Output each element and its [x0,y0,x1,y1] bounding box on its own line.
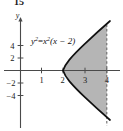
y-axis-label: y [15,11,20,20]
plot-svg: y 4 2 −2 −4 1 2 3 4 y2=x2(x − 2) [0,0,123,131]
x-tick-label-2: 2 [60,75,64,85]
equation-annotation: y2=x2(x − 2) [30,36,75,46]
y-tick-label-minus-4: −4 [6,91,16,101]
y-tick-label-2: 2 [10,53,14,63]
equation-factor: (x − 2) [50,36,75,46]
y-tick-label-minus-2: −2 [6,78,15,88]
y-tick-label-4: 4 [10,41,15,51]
figure-container: 15 y 4 2 −2 −4 1 2 [0,0,123,131]
x-tick-label-3: 3 [83,75,87,85]
x-tick-label-4: 4 [105,75,110,85]
x-tick-label-1: 1 [39,75,43,85]
